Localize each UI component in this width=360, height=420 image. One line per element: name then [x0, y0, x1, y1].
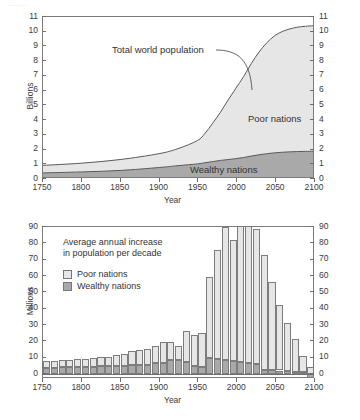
bar-segment-wealthy-nations: [105, 366, 112, 374]
y-tick-label: 80: [16, 238, 38, 247]
bar-segment-poor-nations: [160, 342, 167, 362]
bar-chart-zero-baseline: [43, 374, 313, 375]
y-tick-mark: [42, 119, 46, 120]
bar-segment-wealthy-nations: [128, 365, 135, 374]
x-tick-label: 1850: [104, 183, 136, 192]
bar-segment-poor-nations: [237, 226, 244, 362]
y-tick-mark: [310, 60, 314, 61]
y-tick-mark: [42, 75, 46, 76]
bar-segment-poor-nations: [261, 255, 268, 370]
bar-segment-poor-nations: [43, 361, 50, 368]
y-tick-label: 90: [16, 222, 38, 231]
y-tick-mark: [310, 119, 314, 120]
y-tick-label: 70: [319, 254, 343, 263]
bar-segment-wealthy-nations: [214, 359, 221, 374]
total-world-population-annotation: Total world population: [112, 44, 204, 55]
y-tick-mark: [310, 324, 314, 325]
y-tick-label: 80: [319, 238, 343, 247]
y-tick-label: 10: [16, 352, 38, 361]
bar-segment-wealthy-nations: [222, 360, 229, 374]
bar-segment-wealthy-nations: [66, 367, 73, 374]
bar-segment-poor-nations: [206, 277, 213, 358]
y-tick-label: 1: [16, 159, 38, 168]
bar-segment-wealthy-nations: [121, 366, 128, 374]
legend-label-poor-nations: Poor nations: [77, 269, 128, 279]
y-tick-mark: [42, 60, 46, 61]
x-tick-label: 2050: [259, 183, 291, 192]
legend-swatch-wealthy-nations: [63, 282, 72, 291]
y-tick-label: 11: [16, 12, 38, 21]
bar-segment-poor-nations: [222, 227, 229, 359]
y-tick-mark: [310, 340, 314, 341]
y-tick-label: 50: [319, 287, 343, 296]
y-tick-label: 0: [319, 369, 343, 378]
y-tick-label: 30: [319, 320, 343, 329]
y-tick-mark: [42, 163, 46, 164]
y-tick-mark: [42, 308, 46, 309]
bar-segment-wealthy-nations: [160, 363, 167, 374]
x-tick-label: 1900: [143, 383, 175, 392]
bar-segment-poor-nations: [144, 349, 151, 365]
bar-segment-poor-nations: [175, 346, 182, 360]
y-tick-label: 90: [319, 222, 343, 231]
bar-segment-poor-nations: [74, 359, 81, 367]
annual-increase-bar-chart: Average annual increase in population pe…: [0, 212, 360, 420]
y-tick-label: 1: [319, 159, 343, 168]
bar-segment-poor-nations: [152, 346, 159, 364]
y-tick-mark: [310, 275, 314, 276]
bar-segment-wealthy-nations: [97, 366, 104, 374]
y-tick-label: 0: [16, 174, 38, 183]
y-tick-label: 10: [319, 26, 343, 35]
bar-segment-poor-nations: [121, 354, 128, 366]
y-tick-mark: [310, 90, 314, 91]
x-tick-label: 1750: [26, 183, 58, 192]
bar-segment-wealthy-nations: [152, 363, 159, 374]
area-y-axis-label: Billions: [25, 56, 35, 136]
x-tick-label: 1850: [104, 383, 136, 392]
bar-segment-poor-nations: [90, 358, 97, 367]
bar-segment-wealthy-nations: [206, 358, 213, 374]
bar-segment-wealthy-nations: [82, 367, 89, 374]
y-tick-label: 9: [319, 41, 343, 50]
bar-segment-poor-nations: [66, 360, 73, 367]
bar-segment-wealthy-nations: [198, 367, 205, 374]
y-tick-label: 2: [16, 144, 38, 153]
legend-title-line-2: in population per decade: [63, 248, 162, 259]
y-tick-mark: [310, 259, 314, 260]
y-tick-mark: [42, 259, 46, 260]
y-tick-label: 3: [319, 129, 343, 138]
bar-segment-poor-nations: [105, 357, 112, 366]
y-tick-label: 5: [319, 100, 343, 109]
figure-page: —— ·········· 01234567891011 01234567891…: [0, 0, 360, 420]
y-tick-label: 0: [16, 369, 38, 378]
bar-segment-wealthy-nations: [59, 367, 66, 374]
y-tick-mark: [42, 357, 46, 358]
y-tick-mark: [310, 75, 314, 76]
y-tick-label: 10: [16, 26, 38, 35]
bar-segment-poor-nations: [214, 250, 221, 360]
bar-x-axis-label: Year: [164, 395, 181, 405]
area-plot-region: [42, 16, 314, 178]
bar-segment-poor-nations: [284, 323, 291, 371]
y-tick-label: 4: [319, 115, 343, 124]
bar-segment-wealthy-nations: [90, 367, 97, 374]
bar-segment-poor-nations: [230, 240, 237, 361]
bar-segment-wealthy-nations: [167, 360, 174, 374]
bar-segment-wealthy-nations: [74, 367, 81, 374]
x-tick-label: 2100: [298, 383, 330, 392]
y-tick-mark: [310, 31, 314, 32]
x-tick-label: 1800: [65, 183, 97, 192]
bar-segment-poor-nations: [292, 339, 299, 372]
bar-segment-poor-nations: [268, 282, 275, 370]
bar-segment-wealthy-nations: [136, 365, 143, 374]
y-tick-label: 11: [319, 12, 343, 21]
y-tick-label: 10: [319, 352, 343, 361]
bar-segment-wealthy-nations: [144, 365, 151, 374]
bar-segment-poor-nations: [51, 361, 58, 368]
x-tick-label: 1800: [65, 383, 97, 392]
y-tick-mark: [310, 308, 314, 309]
bar-segment-poor-nations: [276, 305, 283, 370]
y-tick-mark: [310, 16, 314, 17]
legend-item-poor-nations: Poor nations: [63, 268, 162, 280]
y-tick-mark: [42, 45, 46, 46]
